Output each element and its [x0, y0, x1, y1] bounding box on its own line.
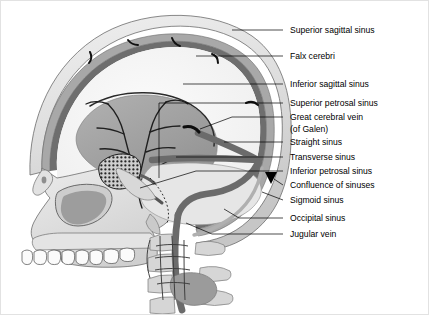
label-confluence-of-sinuses: Confluence of sinuses: [290, 180, 375, 190]
label-jugular-vein: Jugular vein: [290, 229, 337, 239]
transverse-sinus: [152, 158, 258, 160]
label-inferior-petrosal-sinus: Inferior petrosal sinus: [290, 166, 372, 176]
label-straight-sinus: Straight sinus: [290, 137, 342, 147]
label-sigmoid-sinus: Sigmoid sinus: [290, 195, 344, 205]
anatomical-diagram: Superior sagittal sinus Falx cerebri Inf…: [0, 0, 429, 315]
label-inferior-sagittal-sinus: Inferior sagittal sinus: [290, 79, 369, 89]
figure-container: Superior sagittal sinus Falx cerebri Inf…: [0, 0, 429, 315]
nasal-foramen: [42, 177, 47, 184]
maxilla-block: [32, 233, 156, 250]
label-superior-sagittal-sinus: Superior sagittal sinus: [290, 25, 375, 35]
label-falx-cerebri: Falx cerebri: [290, 51, 335, 61]
label-great-cerebral-vein-line2: (of Galen): [290, 124, 328, 134]
label-transverse-sinus: Transverse sinus: [290, 152, 355, 162]
label-superior-petrosal-sinus: Superior petrosal sinus: [290, 98, 378, 108]
label-occipital-sinus: Occipital sinus: [290, 213, 345, 223]
label-great-cerebral-vein: Great cerebral vein: [290, 112, 363, 122]
